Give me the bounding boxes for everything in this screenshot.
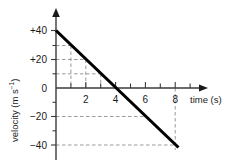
y-tick-label-40: +40 (30, 25, 47, 36)
x-tick-label-2: 2 (83, 94, 89, 105)
axes (56, 14, 202, 160)
x-tick-label-4: 4 (113, 94, 119, 105)
y-axis-ticks (51, 31, 56, 146)
x-tick-label-8: 8 (172, 94, 178, 105)
x-tick-label-6: 6 (143, 94, 149, 105)
velocity-time-chart: +40 +20 0 −20 −40 2 4 6 8 time (s) veloc… (0, 0, 236, 168)
x-axis-arrow (199, 84, 208, 91)
svg-text:velocity (m s−1): velocity (m s−1) (8, 79, 20, 142)
y-axis-arrow (52, 8, 60, 17)
y-tick-label-neg40: −40 (30, 140, 47, 151)
y-axis-title-end: ) (9, 79, 20, 82)
y-tick-label-neg20: −20 (30, 111, 47, 122)
x-axis-ticks (71, 82, 190, 88)
y-axis-title: velocity (m s−1) (8, 79, 20, 142)
y-axis-title-main: velocity (m s (9, 89, 20, 142)
x-axis-title: time (s) (190, 94, 222, 105)
y-tick-label-0: 0 (41, 83, 47, 94)
chart-canvas: +40 +20 0 −20 −40 2 4 6 8 time (s) veloc… (0, 0, 236, 168)
y-tick-label-20: +20 (30, 54, 47, 65)
velocity-line (56, 31, 179, 148)
